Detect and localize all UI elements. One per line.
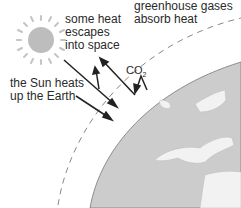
co2-subscript: 2 <box>143 71 147 78</box>
co2-text: CO <box>126 64 143 76</box>
greenhouse-label: greenhouse gases absorb heat <box>134 0 233 26</box>
greenhouse-diagram: some heat escapes into space the Sun hea… <box>0 0 241 208</box>
sun-heats-label: the Sun heats up the Earth <box>10 77 84 103</box>
co2-label: CO2 <box>126 64 146 78</box>
sun-icon <box>17 16 65 64</box>
escape-label: some heat escapes into space <box>65 13 121 52</box>
